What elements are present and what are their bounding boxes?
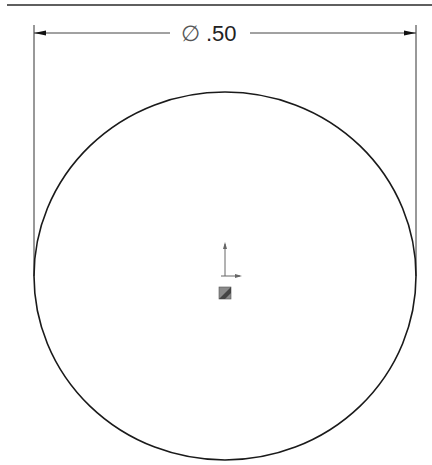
diameter-symbol: ∅ — [181, 21, 200, 46]
y-arrow-icon — [223, 242, 227, 249]
arrowhead-right-icon — [404, 31, 416, 36]
arrowhead-left-icon — [34, 31, 46, 36]
x-arrow-icon — [235, 274, 242, 278]
dimension-value: .50 — [206, 21, 237, 46]
drawing-canvas[interactable]: ∅ .50 — [0, 0, 432, 465]
origin-marker — [219, 242, 242, 299]
diameter-dimension[interactable]: ∅ .50 — [181, 21, 237, 46]
